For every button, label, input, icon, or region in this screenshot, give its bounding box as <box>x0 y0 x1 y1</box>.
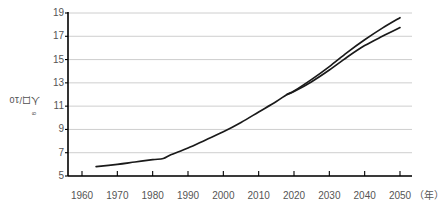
gridlines <box>68 13 412 176</box>
data-line-series-1 <box>96 18 400 167</box>
x-axis-tick-label: 1970 <box>106 190 128 201</box>
data-series-group <box>96 18 400 167</box>
x-axis-ticks <box>65 13 400 176</box>
x-axis-tick-label: 2040 <box>354 190 376 201</box>
x-axis-tick-label: 1980 <box>142 190 164 201</box>
x-axis-tick-label: 2050 <box>389 190 411 201</box>
x-axis-unit-label: （年） <box>414 190 442 201</box>
x-axis-tick-label: 2010 <box>248 190 270 201</box>
x-axis-tick-label: 2000 <box>212 190 234 201</box>
x-axis-tick-label: 1990 <box>177 190 199 201</box>
x-axis-tick-label: 1960 <box>71 190 93 201</box>
x-axis-tick-label: 2020 <box>283 190 305 201</box>
x-axis-tick-label: 2030 <box>318 190 340 201</box>
x-axis-tick-labels: 1960197019801990200020102020203020402050… <box>0 188 430 208</box>
